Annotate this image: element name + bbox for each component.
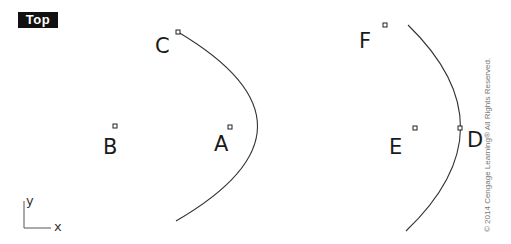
point-label-e: E [389,137,402,158]
point-marker-f [383,23,387,27]
point-label-d: D [467,130,483,151]
point-marker-c [176,30,180,34]
copyright-notice: © 2014 Cengage Learning® All Rights Rese… [483,58,492,232]
point-marker-b [113,124,117,128]
point-marker-a [228,125,232,129]
point-label-a: A [214,134,228,155]
point-marker-d [458,126,462,130]
point-label-c: C [155,36,170,57]
top-viewport: Top A B C D E F y x © 2014 Cengage Learn… [0,0,511,244]
drawing-canvas [0,0,511,244]
axis-label-x: x [54,220,62,233]
axis-label-y: y [26,194,34,207]
point-label-b: B [103,137,117,158]
curve-left-parabola [176,32,258,221]
point-marker-e [413,126,417,130]
point-label-f: F [359,31,371,52]
